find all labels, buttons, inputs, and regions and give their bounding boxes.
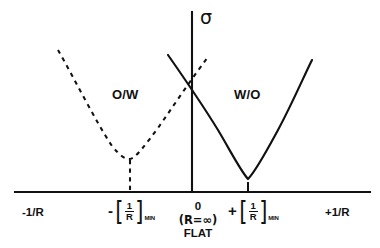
bracket-close-icon: ] [259, 200, 267, 222]
plus-sign: + [228, 203, 237, 218]
fraction-numerator: 1 [126, 201, 133, 211]
x-tick-label-min-positive: + [ 1 R ] MIN [228, 200, 279, 222]
subscript-min: MIN [144, 215, 154, 221]
fraction-one-over-r: 1 R [248, 201, 258, 221]
fraction-denominator: R [249, 211, 258, 222]
fraction-numerator: 1 [250, 201, 257, 211]
y-axis-title: σ [200, 8, 212, 27]
origin-condition: (R=∞) [170, 214, 226, 228]
fraction-one-over-r: 1 R [125, 201, 135, 221]
phase-diagram-figure: σ O/W W/O -1/R +1/R - [ 1 R ] MIN 0 (R=∞… [0, 0, 380, 248]
x-axis-left-label: -1/R [22, 207, 44, 219]
x-axis-right-label: +1/R [325, 207, 350, 219]
origin-value: 0 [170, 200, 226, 214]
bracket-close-icon: ] [136, 200, 144, 222]
x-tick-label-min-negative: - [ 1 R ] MIN [108, 200, 155, 222]
bracket-open-icon: [ [239, 200, 247, 222]
region-label-wo: W/O [234, 88, 261, 101]
x-tick-label-origin: 0 (R=∞) FLAT [170, 200, 226, 241]
minus-sign: - [108, 203, 113, 218]
ow-curve-dashed [58, 50, 208, 159]
fraction-denominator: R [125, 211, 134, 222]
wo-curve-solid [168, 55, 312, 179]
region-label-ow: O/W [112, 88, 139, 101]
subscript-min: MIN [268, 215, 278, 221]
origin-state: FLAT [170, 227, 226, 241]
bracket-open-icon: [ [115, 200, 123, 222]
